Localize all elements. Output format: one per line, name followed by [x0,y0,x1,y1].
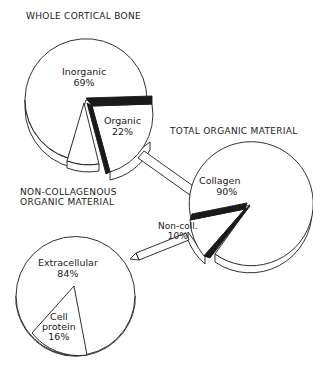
title-total-organic: TOTAL ORGANIC MATERIAL [170,126,298,136]
title-non-collagenous: NON-COLLAGENOUS ORGANIC MATERIAL [20,187,117,208]
slice-value: 10% [158,231,198,241]
label-collagen: Collagen 90% [199,176,240,198]
label-cell-protein: Cell protein 16% [42,312,76,342]
label-organic: Organic 22% [104,116,141,138]
title-line-2: ORGANIC MATERIAL [20,197,117,207]
bone-composition-diagram: WHOLE CORTICAL BONE TOTAL ORGANIC MATERI… [0,0,313,378]
title-whole-cortical-bone: WHOLE CORTICAL BONE [26,11,141,21]
slice-value: 84% [38,269,98,280]
slice-value: 90% [213,187,240,198]
pie-total-organic [188,142,313,273]
slice-label: Non-coll. [158,221,198,231]
label-inorganic: Inorganic 69% [62,67,106,89]
slice-value: 69% [62,78,106,89]
slice-value: 22% [104,127,141,138]
pie-whole-cortical-bone [25,39,153,180]
label-non-collagen: Non-coll. 10% [158,221,198,242]
label-extracellular: Extracellular 84% [38,258,98,280]
slice-value: 16% [42,332,76,342]
connector-organic-to-total [138,151,198,196]
title-line-1: NON-COLLAGENOUS [20,187,117,197]
